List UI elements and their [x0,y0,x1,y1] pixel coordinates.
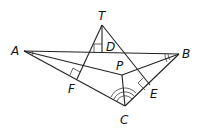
segment-AC [24,51,125,106]
angle-mark-B-2 [165,54,167,62]
geometry-diagram: A T B C P D F E [0,0,200,131]
label-B: B [182,47,190,61]
right-angle-mark-D [94,44,102,52]
label-P: P [116,59,124,73]
label-D: D [106,40,115,54]
segment-TE [102,25,150,85]
label-A: A [10,44,19,58]
right-angle-mark-F [70,68,80,75]
segment-PC [122,75,125,106]
label-C: C [120,113,129,127]
segment-BP [122,54,179,75]
label-E: E [150,87,158,101]
label-F: F [68,82,76,96]
segment-AP [24,51,122,75]
label-T: T [98,9,107,23]
